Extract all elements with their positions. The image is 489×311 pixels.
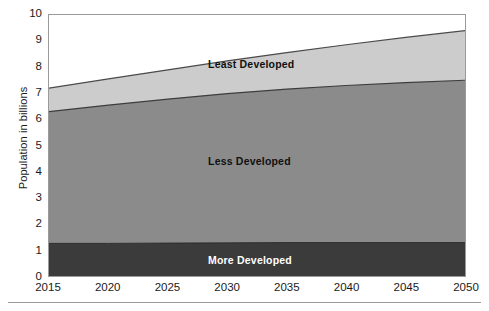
y-tick-label: 2 xyxy=(20,218,42,230)
plot-area: Least Developed Less Developed More Deve… xyxy=(48,14,466,277)
y-tick-label: 8 xyxy=(20,61,42,73)
series-label-more-developed: More Developed xyxy=(208,254,292,266)
series-label-least-developed: Least Developed xyxy=(208,58,294,70)
y-tick-label: 6 xyxy=(20,113,42,125)
y-tick-label: 1 xyxy=(20,245,42,257)
x-tick-label: 2015 xyxy=(21,282,75,294)
y-tick-label: 7 xyxy=(20,87,42,99)
y-tick-label: 5 xyxy=(20,140,42,152)
y-tick-label: 3 xyxy=(20,192,42,204)
y-tick-label: 9 xyxy=(20,34,42,46)
y-tick-label: 10 xyxy=(20,8,42,20)
x-tick-label: 2025 xyxy=(140,282,194,294)
x-tick-label: 2030 xyxy=(200,282,254,294)
series-label-less-developed: Less Developed xyxy=(208,155,291,167)
y-tick-label: 4 xyxy=(20,166,42,178)
x-tick-label: 2040 xyxy=(320,282,374,294)
population-stacked-area-chart: Population in billions 012345678910 Leas… xyxy=(0,0,489,311)
area-series-svg xyxy=(49,15,465,276)
x-tick-label: 2045 xyxy=(379,282,433,294)
x-tick-label: 2035 xyxy=(260,282,314,294)
x-tick-label: 2020 xyxy=(81,282,135,294)
bottom-divider-rule xyxy=(8,302,481,303)
x-tick-label: 2050 xyxy=(439,282,489,294)
